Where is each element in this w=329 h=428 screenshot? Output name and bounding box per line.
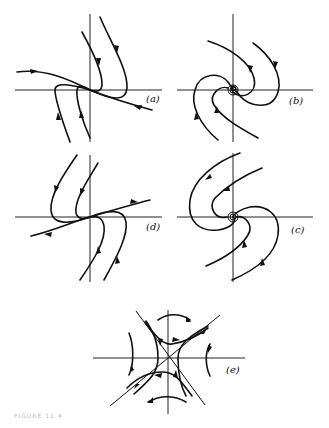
label-a: (a) [146, 93, 160, 104]
panel-a: (a) [15, 14, 162, 142]
panel-b: (b) [177, 14, 313, 142]
phase-portrait-figure: (a) (b) (d) [0, 0, 329, 428]
panel-c: (c) [177, 153, 313, 282]
panel-e: (e) [93, 310, 245, 414]
label-e: (e) [226, 364, 240, 375]
label-d: (d) [146, 221, 160, 232]
panel-d: (d) [15, 155, 162, 282]
label-b: (b) [289, 95, 303, 106]
figure-caption: FIGURE 11.4 [14, 412, 63, 419]
label-c: (c) [291, 224, 305, 235]
